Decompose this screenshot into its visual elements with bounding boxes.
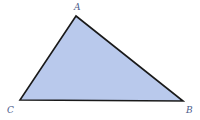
vertex-label-b: B xyxy=(185,105,193,115)
vertex-label-c: C xyxy=(7,105,14,115)
triangle-abc xyxy=(20,16,183,101)
vertex-label-a: A xyxy=(73,2,81,12)
triangle-diagram: A B C xyxy=(0,0,200,120)
